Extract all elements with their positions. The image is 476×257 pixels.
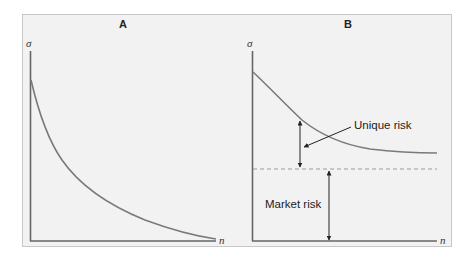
panel-b-y-label: σ [247,37,253,49]
market-risk-label: Market risk [265,198,321,210]
panel-a-x-label: n [219,234,225,246]
panel-a: A σ n [26,18,225,246]
chart-svg: A σ n B σ n Unique risk Market risk [0,0,476,257]
panel-a-risk-curve [31,80,216,239]
panel-a-y-label: σ [26,37,32,49]
panel-b: B σ n Unique risk Market risk [247,18,446,246]
panel-a-title: A [119,18,127,30]
panel-b-title: B [344,18,352,30]
unique-risk-pointer [304,127,351,147]
panel-b-risk-curve [253,72,437,153]
panel-b-x-label: n [440,234,446,246]
unique-risk-label: Unique risk [354,119,412,131]
